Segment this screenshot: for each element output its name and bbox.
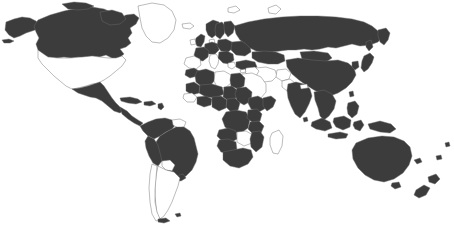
world-map-svg [0, 0, 454, 228]
region-ireland [190, 39, 196, 45]
region-nepal [300, 84, 308, 89]
region-fiji [436, 155, 442, 160]
region-cyprus [240, 69, 246, 73]
region-pacific-islands [445, 142, 450, 147]
world-map-figure [0, 0, 454, 228]
region-sri-lanka [303, 117, 308, 122]
region-taiwan [349, 91, 354, 97]
